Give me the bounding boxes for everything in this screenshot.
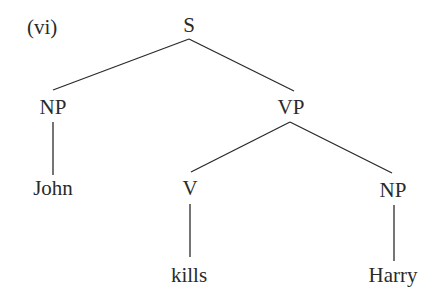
edge-vp-np bbox=[290, 122, 392, 173]
node-harry: Harry bbox=[369, 264, 418, 286]
node-vp: VP bbox=[278, 96, 305, 118]
node-kills: kills bbox=[171, 264, 207, 286]
tree-edges bbox=[0, 0, 448, 296]
node-np-object: NP bbox=[380, 179, 407, 201]
edge-vp-v bbox=[191, 122, 290, 172]
node-np-subject: NP bbox=[40, 96, 67, 118]
edge-s-vp bbox=[189, 39, 294, 91]
example-label: (vi) bbox=[27, 16, 57, 38]
node-v: V bbox=[182, 177, 197, 199]
edge-s-np bbox=[53, 39, 189, 90]
node-john: John bbox=[33, 177, 73, 199]
node-s: S bbox=[183, 14, 195, 36]
